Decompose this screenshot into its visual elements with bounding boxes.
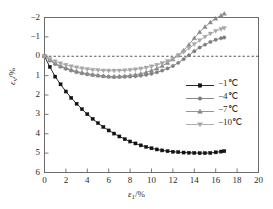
series-marker: [219, 37, 222, 40]
series-marker: [160, 69, 163, 72]
series-marker: [223, 36, 226, 39]
legend-marker-sample: [185, 90, 215, 101]
series-marker: [203, 43, 206, 46]
series-marker: [171, 150, 174, 153]
series-marker: [166, 67, 169, 70]
series-marker: [80, 108, 83, 111]
y-tick-label: −1: [22, 32, 40, 41]
x-tick-label: 16: [206, 176, 226, 185]
series-marker: [59, 83, 62, 86]
legend-item[interactable]: −1℃: [185, 76, 242, 89]
series-marker: [118, 135, 121, 138]
series-marker: [150, 72, 153, 75]
legend-label: −1℃: [218, 78, 238, 88]
y-axis-label: εv/%: [7, 73, 17, 85]
series-marker: [75, 102, 78, 105]
x-tick-label: 10: [142, 176, 162, 185]
series-marker: [177, 151, 180, 154]
legend-item[interactable]: −7℃: [185, 102, 242, 115]
series-marker: [187, 54, 190, 57]
series-marker: [193, 151, 196, 154]
x-tick-label: 20: [249, 176, 269, 185]
y-tick-label: 1: [22, 71, 40, 80]
series-marker: [145, 145, 148, 148]
series-marker: [182, 57, 185, 60]
legend-label: −7℃: [218, 104, 238, 114]
series-marker: [219, 150, 222, 153]
series-marker: [182, 151, 185, 154]
series-marker: [198, 152, 201, 155]
legend-label: −10℃: [218, 117, 242, 127]
series-marker: [48, 65, 51, 68]
series-marker: [214, 151, 217, 154]
series-marker: [161, 149, 164, 152]
series-marker: [129, 140, 132, 143]
series-marker: [223, 150, 226, 153]
y-tick-label: 5: [22, 148, 40, 157]
legend-item[interactable]: −10℃: [185, 115, 242, 128]
series-marker: [155, 71, 158, 74]
series-marker: [209, 40, 212, 43]
chart-legend: −1℃−4℃−7℃−10℃: [185, 76, 242, 128]
series-marker: [198, 46, 201, 49]
series-marker: [102, 125, 105, 128]
series-marker: [177, 61, 180, 64]
x-tick-label: 8: [120, 176, 140, 185]
series-marker: [139, 144, 142, 147]
series-marker: [134, 142, 137, 145]
legend-marker-sample: [185, 77, 215, 88]
series-marker: [96, 122, 99, 125]
x-tick-label: 0: [35, 176, 55, 185]
x-tick-label: 4: [77, 176, 97, 185]
series-marker: [150, 147, 153, 150]
series-marker: [107, 129, 110, 132]
series-marker: [209, 151, 212, 154]
y-tick-label: 3: [22, 109, 40, 118]
legend-marker-sample: [185, 103, 215, 114]
x-axis-label: ε1/%: [0, 189, 273, 199]
series-marker: [64, 90, 67, 93]
series-marker: [155, 148, 158, 151]
chart-figure: −2−10123456 02468101214161820 εv/% ε1/% …: [0, 0, 273, 209]
series-marker: [54, 75, 57, 78]
x-tick-label: 14: [184, 176, 204, 185]
legend-item[interactable]: −4℃: [185, 89, 242, 102]
series-marker: [166, 150, 169, 153]
series-marker: [171, 64, 174, 67]
series-marker: [187, 151, 190, 154]
legend-marker-sample: [185, 116, 215, 127]
y-tick-label: −2: [22, 13, 40, 22]
x-tick-label: 2: [56, 176, 76, 185]
y-tick-label: 4: [22, 129, 40, 138]
series-marker: [86, 113, 89, 116]
y-tick-label: 0: [22, 51, 40, 60]
series-marker: [70, 96, 73, 99]
y-tick-label: 2: [22, 90, 40, 99]
x-tick-label: 18: [227, 176, 247, 185]
x-tick-label: 12: [163, 176, 183, 185]
x-tick-label: 6: [99, 176, 119, 185]
series-marker: [91, 117, 94, 120]
series-marker: [123, 138, 126, 141]
series-marker: [214, 38, 217, 41]
series-marker: [112, 132, 115, 135]
series-marker: [222, 11, 226, 15]
series-marker: [193, 50, 196, 53]
legend-label: −4℃: [218, 91, 238, 101]
series-marker: [203, 152, 206, 155]
